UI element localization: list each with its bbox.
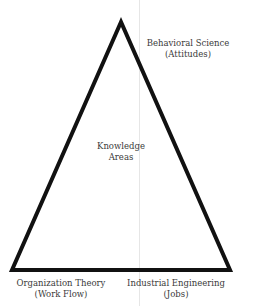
vertex-subtitle: (Jobs) bbox=[124, 289, 228, 300]
vertex-title: Behavioral Science bbox=[143, 38, 233, 49]
vertex-title: Industrial Engineering bbox=[124, 278, 228, 289]
center-label-knowledge-areas: Knowledge Areas bbox=[85, 141, 157, 163]
vertex-subtitle: (Work Flow) bbox=[8, 289, 114, 300]
center-line1: Knowledge bbox=[85, 141, 157, 152]
vertex-title: Organization Theory bbox=[8, 278, 114, 289]
vertex-label-behavioral-science: Behavioral Science (Attitudes) bbox=[143, 38, 233, 60]
vertex-label-industrial-engineering: Industrial Engineering (Jobs) bbox=[124, 278, 228, 300]
vertex-subtitle: (Attitudes) bbox=[143, 49, 233, 60]
vertex-label-organization-theory: Organization Theory (Work Flow) bbox=[8, 278, 114, 300]
center-line2: Areas bbox=[85, 152, 157, 163]
